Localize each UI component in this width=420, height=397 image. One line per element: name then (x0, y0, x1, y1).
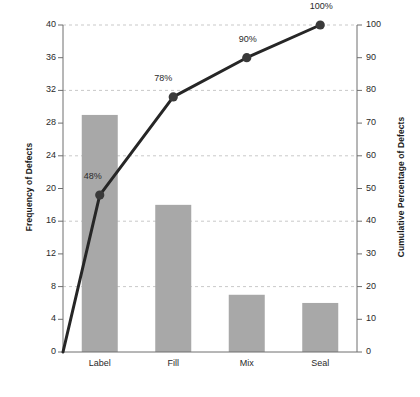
data-point-fill (169, 92, 178, 101)
data-point-mix (242, 53, 251, 62)
bar-series (82, 115, 339, 352)
y-tick-label-right: 50 (366, 183, 392, 193)
y-tick-label-left: 12 (30, 248, 56, 258)
cumulative-pct-label-fill: 78% (143, 73, 183, 83)
bar-fill (155, 205, 191, 352)
y-tick-label-left: 32 (30, 84, 56, 94)
x-category-label-mix: Mix (217, 358, 277, 368)
y-tick-label-left: 0 (30, 346, 56, 356)
data-point-seal (316, 20, 325, 29)
y-tick-label-right: 40 (366, 215, 392, 225)
y-tick-label-left: 24 (30, 150, 56, 160)
y-tick-label-right: 30 (366, 248, 392, 258)
bar-mix (229, 295, 265, 352)
y-tick-label-right: 80 (366, 84, 392, 94)
data-point-label (95, 190, 104, 199)
cumulative-pct-label-mix: 90% (228, 34, 268, 44)
bar-label (82, 115, 118, 352)
y-tick-label-left: 16 (30, 215, 56, 225)
y-tick-label-right: 0 (366, 346, 392, 356)
pareto-chart: Frequency of Defects Cumulative Percenta… (0, 0, 420, 397)
y-tick-label-right: 20 (366, 281, 392, 291)
y-tick-label-right: 60 (366, 150, 392, 160)
chart-plot-area (0, 0, 420, 397)
x-category-label-fill: Fill (143, 358, 203, 368)
x-category-label-label: Label (70, 358, 130, 368)
cumulative-pct-label-label: 48% (73, 171, 113, 181)
y-tick-label-right: 100 (366, 19, 392, 29)
cumulative-pct-label-seal: 100% (301, 1, 341, 11)
cumulative-line-markers (95, 20, 325, 199)
y-tick-label-left: 40 (30, 19, 56, 29)
y-tick-label-left: 28 (30, 117, 56, 127)
y-tick-label-left: 36 (30, 52, 56, 62)
y-tick-label-left: 4 (30, 313, 56, 323)
y-tick-label-left: 8 (30, 281, 56, 291)
bar-seal (302, 303, 338, 352)
y-tick-label-right: 10 (366, 313, 392, 323)
y-tick-label-right: 90 (366, 52, 392, 62)
x-category-label-seal: Seal (290, 358, 350, 368)
y-tick-label-left: 20 (30, 183, 56, 193)
y-tick-label-right: 70 (366, 117, 392, 127)
